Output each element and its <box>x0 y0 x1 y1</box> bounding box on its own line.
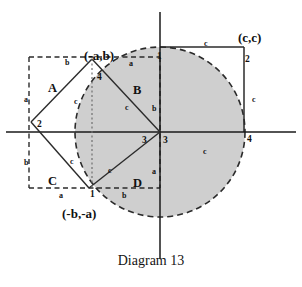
coord-top-right: (c,c) <box>238 31 261 44</box>
vertex-3-left: 3 <box>142 136 147 146</box>
diagram-page: (-a,b) (c,c) (-b,-a) A B C D 1 2 4 2 3 3… <box>0 0 302 287</box>
side-c-regiond: c <box>108 167 112 175</box>
side-b-topleft: b <box>65 59 69 67</box>
side-b-regionb: b <box>152 105 156 113</box>
coord-top-left: (-a,b) <box>84 49 114 62</box>
side-c-right: c <box>252 96 256 104</box>
vertex-4-right: 4 <box>247 135 252 145</box>
side-c-xaxis: c <box>203 148 207 156</box>
vertex-4-inner: 4 <box>97 73 102 83</box>
side-b-bottom: b <box>122 192 126 200</box>
side-b-leftlow: b <box>24 159 28 167</box>
side-a-bottom: a <box>59 192 63 200</box>
side-c-regionc: c <box>70 158 74 166</box>
region-d: D <box>133 177 142 190</box>
side-a-regiond: a <box>152 168 156 176</box>
coord-bottom: (-b,-a) <box>62 207 96 220</box>
vertex-2-left: 2 <box>37 120 42 130</box>
side-c-regionb: c <box>125 104 129 112</box>
side-c-regiona: c <box>74 98 78 106</box>
region-b: B <box>133 84 141 97</box>
region-c: C <box>48 175 57 188</box>
side-a-left: a <box>24 96 28 104</box>
figure-caption: Diagram 13 <box>0 253 302 269</box>
vertex-3-origin: 3 <box>163 136 168 146</box>
side-a-topmid: a <box>129 60 133 68</box>
vertex-1-top: 1 <box>157 52 162 62</box>
vertex-2-topright: 2 <box>245 55 250 65</box>
region-a: A <box>48 82 57 95</box>
vertex-1-bottom: 1 <box>90 190 95 200</box>
side-c-top: c <box>204 40 208 48</box>
